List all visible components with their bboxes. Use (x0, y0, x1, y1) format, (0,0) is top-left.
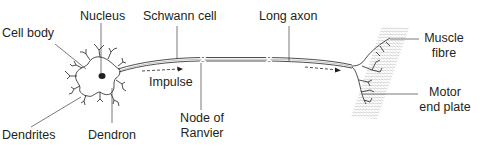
label-node-line1: Node of (174, 111, 230, 126)
label-dendrites: Dendrites (2, 128, 56, 143)
label-long-axon: Long axon (259, 9, 317, 24)
label-muscle-fibre: Muscle fibre (420, 31, 468, 61)
nucleus-shape (99, 73, 106, 79)
impulse-arrows (142, 67, 341, 73)
label-motor-end-plate: Motor end plate (416, 85, 474, 115)
label-schwann-cell: Schwann cell (143, 9, 217, 24)
label-motor-line1: Motor (416, 85, 474, 100)
label-node-of-ranvier: Node of Ranvier (174, 111, 230, 141)
label-cell-body: Cell body (2, 26, 54, 41)
label-motor-line2: end plate (416, 100, 474, 115)
label-muscle-line1: Muscle (420, 31, 468, 46)
muscle-fibre-shape (351, 26, 409, 119)
label-nucleus: Nucleus (80, 9, 125, 24)
label-impulse: Impulse (149, 75, 193, 90)
label-dendron: Dendron (88, 128, 136, 143)
axon-shape (118, 38, 390, 104)
label-node-line2: Ranvier (174, 126, 230, 141)
motor-neuron-diagram: Cell body Nucleus Schwann cell Long axon… (0, 0, 480, 154)
label-muscle-line2: fibre (420, 46, 468, 61)
neuron-drawing (0, 0, 480, 154)
cell-body-shape (65, 44, 126, 106)
